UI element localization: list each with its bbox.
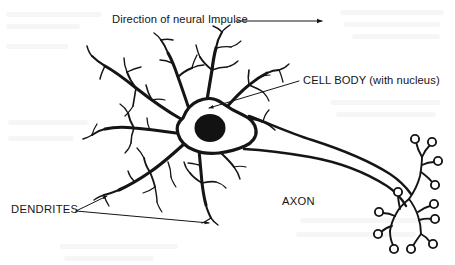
label-axon: AXON	[282, 196, 315, 207]
nucleus	[195, 114, 226, 142]
axon-trunk	[244, 116, 411, 206]
neuron-illustration	[0, 0, 455, 265]
label-impulse-direction: Direction of neural Impulse	[112, 14, 248, 25]
dendrites-leader-line-upper	[76, 196, 107, 211]
cell-body-leader-line	[209, 81, 299, 108]
label-dendrites: DENDRITES	[11, 204, 78, 215]
diagram-canvas: Direction of neural Impulse CELL BODY (w…	[0, 0, 455, 265]
label-cell-body: CELL BODY (with nucleus)	[303, 75, 440, 86]
axon-terminal-knobs	[381, 142, 434, 246]
dendrites-leader-line-lower	[76, 211, 209, 223]
